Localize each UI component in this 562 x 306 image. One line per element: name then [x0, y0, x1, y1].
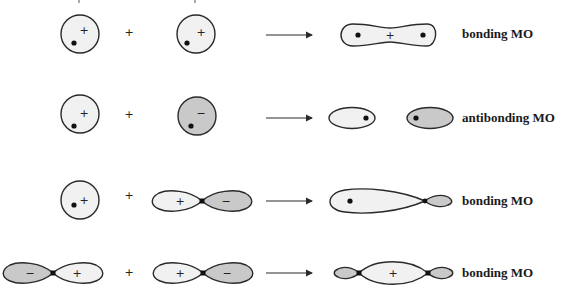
- sign-plus: +: [196, 26, 205, 39]
- p-orbital-right: + −: [152, 191, 252, 211]
- nucleus-dot: [363, 115, 368, 120]
- sign-plus: +: [385, 29, 394, 42]
- nucleus-dot: [184, 40, 189, 45]
- operator-plus: +: [124, 189, 133, 202]
- operator-plus: +: [124, 26, 133, 39]
- sign-plus: +: [72, 267, 81, 280]
- p-orbital-right: + −: [153, 263, 253, 283]
- nucleus-dot: [347, 198, 352, 203]
- nucleus-dot: [188, 123, 193, 128]
- bonding-mo-sigma-ss: +: [341, 24, 436, 46]
- nucleus-dot: [201, 271, 206, 276]
- nucleus-dot: [426, 271, 431, 276]
- p-orbital-left: − +: [3, 263, 103, 283]
- row-4-p-plus-p-bonding: − + + + − +: [3, 262, 453, 285]
- sign-minus: −: [221, 195, 230, 208]
- sign-minus: −: [25, 267, 34, 280]
- nucleus-dot: [51, 271, 56, 276]
- nucleus-dot: [71, 202, 76, 207]
- result-label-row-4: bonding MO: [462, 265, 533, 281]
- sign-plus: +: [175, 195, 184, 208]
- antibonding-mo-sigma-star: [329, 108, 453, 129]
- sign-minus: −: [196, 107, 205, 120]
- bonding-mo-sigma-sp: [330, 189, 452, 213]
- s-orbital-positive-right: +: [177, 15, 215, 53]
- nucleus-dot: [423, 199, 428, 204]
- nucleus-dot: [71, 40, 76, 45]
- result-label-row-3: bonding MO: [462, 193, 533, 209]
- nucleus-dot: [200, 199, 205, 204]
- nucleus-dot: [355, 32, 360, 37]
- cropped-top-marks: [79, 0, 195, 3]
- molecular-orbital-diagram: + + + + + + −: [0, 0, 562, 306]
- row-3-s-plus-p-bonding: + + + −: [61, 181, 452, 219]
- result-label-row-2: antibonding MO: [462, 110, 555, 126]
- s-orbital-positive-left: +: [61, 15, 99, 53]
- row-2-s-plus-s-antibonding: + + −: [61, 95, 453, 135]
- bonding-mo-sigma-pp: +: [334, 262, 453, 285]
- sign-minus: −: [222, 267, 231, 280]
- sign-plus: +: [79, 107, 88, 120]
- operator-plus: +: [124, 108, 133, 121]
- operator-plus: +: [124, 266, 133, 279]
- nucleus-dot: [420, 32, 425, 37]
- s-orbital-positive-left: +: [61, 181, 99, 219]
- nucleus-dot: [413, 115, 418, 120]
- s-orbital-positive-left: +: [61, 95, 99, 133]
- sign-plus: +: [79, 194, 88, 207]
- row-1-s-plus-s-bonding: + + + +: [61, 15, 436, 53]
- result-label-row-1: bonding MO: [462, 26, 533, 42]
- nucleus-dot: [357, 271, 362, 276]
- sign-plus: +: [388, 267, 397, 280]
- nucleus-dot: [71, 123, 76, 128]
- sign-plus: +: [79, 24, 88, 37]
- sign-plus: +: [175, 267, 184, 280]
- s-orbital-negative-right: −: [178, 97, 216, 135]
